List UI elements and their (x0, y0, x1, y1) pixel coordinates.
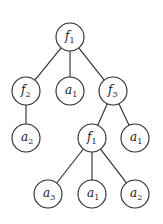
tree-node-a1: a1 (121, 124, 149, 152)
tree-node-a2: a2 (121, 180, 149, 208)
tree-edge (35, 48, 61, 80)
tree-edge (57, 149, 84, 183)
tree-node-a1: a1 (56, 77, 84, 105)
tree-edge (119, 104, 129, 126)
tree-edges (26, 48, 129, 183)
tree-edge (101, 149, 127, 183)
tree-node-f1: f1 (78, 124, 106, 152)
tree-edge (79, 48, 105, 80)
tree-node-f2: f2 (12, 77, 40, 105)
tree-node-a3: a3 (34, 180, 62, 208)
tree-edge (98, 104, 108, 125)
tree-node-a2: a2 (12, 124, 40, 152)
tree-node-a1: a1 (78, 180, 106, 208)
tree-node-f3: f3 (99, 77, 127, 105)
tree-node-f1: f1 (56, 23, 84, 51)
term-tree-diagram: f1f2a1f3a2f1a1a3a1a2 (0, 0, 163, 224)
